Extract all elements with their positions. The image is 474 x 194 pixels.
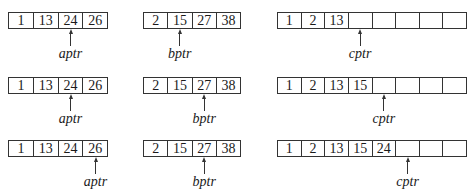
array-c-cell <box>373 78 397 93</box>
array-c-cell: 15 <box>349 78 373 93</box>
array-c-cell: 2 <box>302 13 326 28</box>
array-b-cell: 27 <box>193 141 217 156</box>
array-c-cell: 1 <box>278 78 302 93</box>
bptr-pointer: bptr <box>184 94 224 126</box>
array-c-cell <box>420 78 444 93</box>
aptr-pointer: aptr <box>51 94 91 126</box>
array-b-cell: 15 <box>168 141 192 156</box>
merge-step-3: 1132426 2152738 12131524 aptr bptr cptr <box>0 140 474 194</box>
array-b-cell: 15 <box>168 78 192 93</box>
arrow-shaft <box>70 98 71 111</box>
array-a-cell: 1 <box>9 13 34 28</box>
array-a-cell: 26 <box>83 78 107 93</box>
array-a-cell: 1 <box>9 141 34 156</box>
arrow-shaft <box>95 161 96 174</box>
cptr-label: cptr <box>349 47 372 61</box>
array-a-cell: 1 <box>9 78 34 93</box>
array-a: 1132426 <box>8 140 108 157</box>
array-c-cell: 13 <box>325 141 349 156</box>
array-c-cell <box>373 13 397 28</box>
array-c-cell <box>396 141 420 156</box>
arrow-shaft <box>204 98 205 111</box>
array-c-cell: 15 <box>349 141 373 156</box>
cptr-pointer: cptr <box>364 94 404 126</box>
merge-step-1: 1132426 2152738 1213 aptr bptr cptr <box>0 12 474 76</box>
array-a-cell: 24 <box>59 141 84 156</box>
array-b-cell: 15 <box>168 13 192 28</box>
arrow-shaft <box>179 33 180 46</box>
array-c-cell: 24 <box>373 141 397 156</box>
array-c: 12131524 <box>277 140 467 157</box>
array-a-cell: 24 <box>59 78 84 93</box>
cptr-pointer: cptr <box>388 157 428 189</box>
array-b-cell: 38 <box>217 78 240 93</box>
array-b: 2152738 <box>143 140 241 157</box>
array-c-cell <box>349 13 373 28</box>
array-c-cell: 2 <box>302 78 326 93</box>
array-c-cell <box>396 78 420 93</box>
arrow-shaft <box>383 98 384 111</box>
array-b-cell: 2 <box>144 78 168 93</box>
cptr-pointer: cptr <box>340 29 380 61</box>
array-c-cell: 2 <box>302 141 326 156</box>
array-c: 1213 <box>277 12 467 29</box>
array-c-cell <box>420 141 444 156</box>
array-b-cell: 38 <box>217 13 240 28</box>
array-b: 2152738 <box>143 77 241 94</box>
array-c-cell <box>396 13 420 28</box>
bptr-pointer: bptr <box>184 157 224 189</box>
cptr-label: cptr <box>396 175 419 189</box>
cptr-label: cptr <box>373 112 396 126</box>
array-c-cell <box>420 13 444 28</box>
bptr-label: bptr <box>193 112 216 126</box>
array-a-cell: 26 <box>83 13 107 28</box>
aptr-label: aptr <box>59 47 82 61</box>
array-b-cell: 27 <box>193 78 217 93</box>
array-b-cell: 27 <box>193 13 217 28</box>
array-a-cell: 13 <box>34 141 59 156</box>
aptr-pointer: aptr <box>76 157 116 189</box>
array-c-cell <box>443 78 466 93</box>
arrow-shaft <box>70 33 71 46</box>
bptr-label: bptr <box>193 175 216 189</box>
array-a: 1132426 <box>8 12 108 29</box>
aptr-label: aptr <box>59 112 82 126</box>
arrow-shaft <box>360 33 361 46</box>
bptr-pointer: bptr <box>160 29 200 61</box>
array-b-cell: 2 <box>144 13 168 28</box>
array-b-cell: 38 <box>217 141 240 156</box>
aptr-pointer: aptr <box>51 29 91 61</box>
array-c: 121315 <box>277 77 467 94</box>
merge-step-2: 1132426 2152738 121315 aptr bptr cptr <box>0 77 474 141</box>
bptr-label: bptr <box>168 47 191 61</box>
arrow-shaft <box>407 161 408 174</box>
array-c-cell: 1 <box>278 141 302 156</box>
array-a: 1132426 <box>8 77 108 94</box>
array-b-cell: 2 <box>144 141 168 156</box>
array-b: 2152738 <box>143 12 241 29</box>
array-c-cell: 13 <box>325 13 349 28</box>
array-a-cell: 26 <box>83 141 107 156</box>
arrow-shaft <box>204 161 205 174</box>
array-a-cell: 13 <box>34 78 59 93</box>
array-c-cell <box>443 13 466 28</box>
array-c-cell <box>443 141 466 156</box>
array-a-cell: 24 <box>59 13 84 28</box>
array-a-cell: 13 <box>34 13 59 28</box>
array-c-cell: 13 <box>325 78 349 93</box>
aptr-label: aptr <box>84 175 107 189</box>
array-c-cell: 1 <box>278 13 302 28</box>
